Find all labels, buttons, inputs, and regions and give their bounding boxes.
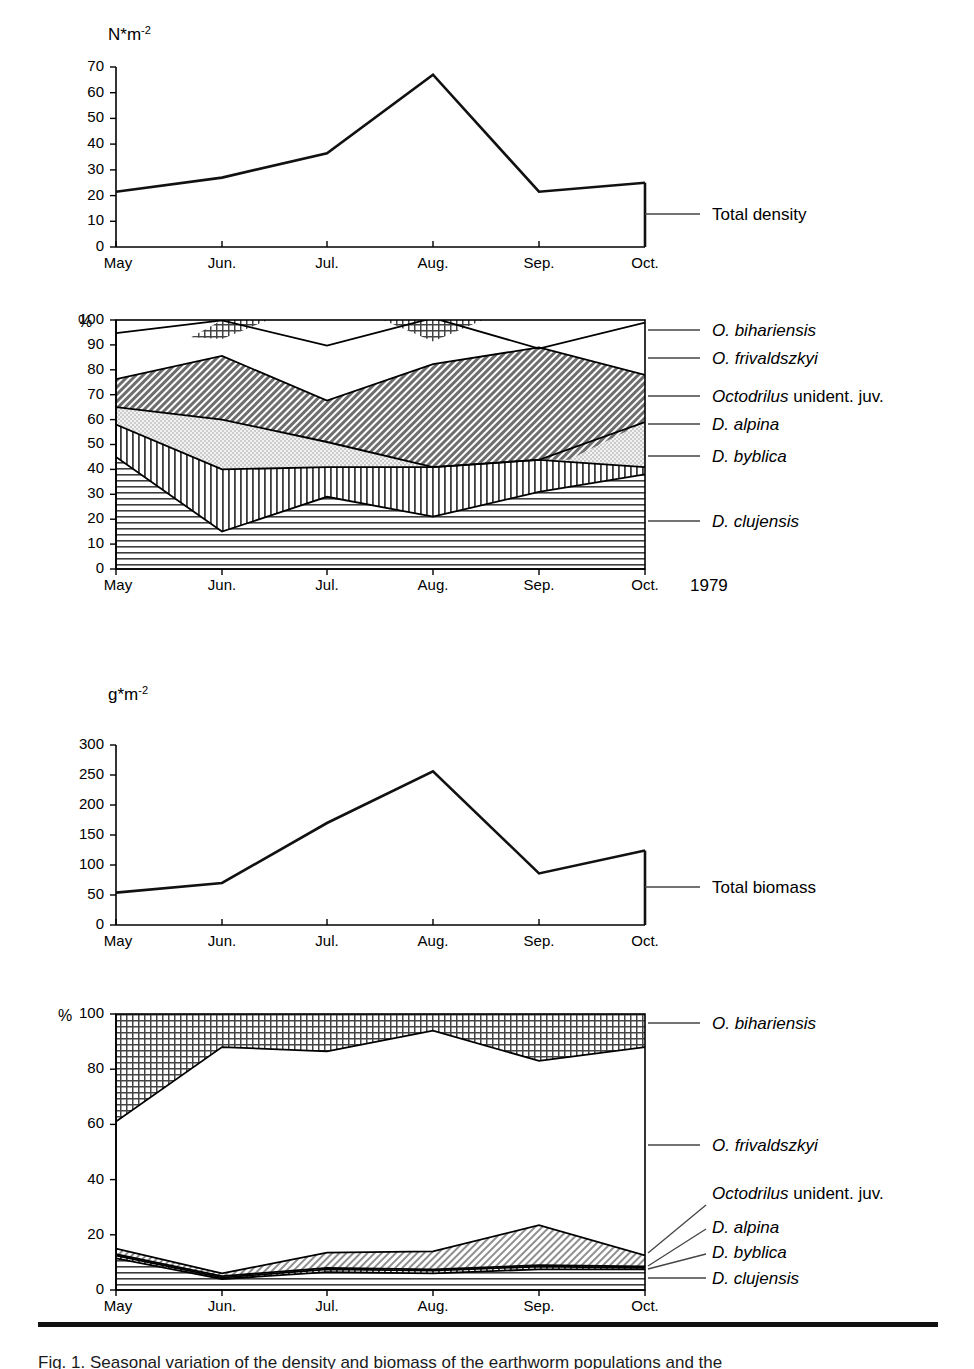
chart-total-density: N*m-2 70 60 50 40 30 20 10 0 [87,24,807,271]
chart1-y-tick-labels: 70 60 50 40 30 20 10 0 [87,57,104,254]
svg-text:80: 80 [87,1059,104,1076]
chart4-x-ticks [116,1290,645,1296]
svg-text:Jun.: Jun. [208,254,236,271]
svg-text:60: 60 [87,83,104,100]
chart1-unit-label: N*m-2 [108,24,151,44]
svg-text:250: 250 [79,765,104,782]
svg-text:100: 100 [79,855,104,872]
svg-text:150: 150 [79,825,104,842]
chart-biomass-composition: % [58,1004,884,1314]
svg-text:100: 100 [79,310,104,327]
svg-text:Jun.: Jun. [208,576,236,593]
figure-root: N*m-2 70 60 50 40 30 20 10 0 [0,0,974,1369]
svg-text:Jun.: Jun. [208,1297,236,1314]
svg-text:200: 200 [79,795,104,812]
svg-text:May: May [104,254,133,271]
svg-text:Sep.: Sep. [524,254,555,271]
svg-text:0: 0 [96,915,104,932]
svg-text:Aug.: Aug. [418,1297,449,1314]
legend-total-biomass: Total biomass [712,878,816,897]
svg-text:10: 10 [87,534,104,551]
svg-text:40: 40 [87,1170,104,1187]
chart3-x-ticks [116,919,645,925]
chart4-percent-label: % [58,1007,72,1024]
svg-text:Sep.: Sep. [524,932,555,949]
chart2-x-ticks [116,569,645,575]
svg-text:Oct.: Oct. [631,254,659,271]
svg-text:70: 70 [87,385,104,402]
leader-b-d-byblica [648,1254,706,1269]
chart4-bands [116,1014,645,1290]
svg-text:60: 60 [87,1114,104,1131]
svg-text:0: 0 [96,237,104,254]
chart2-legend: O. bihariensis O. frivaldszkyi Octodrilu… [648,321,884,531]
svg-text:50: 50 [87,108,104,125]
svg-text:300: 300 [79,735,104,752]
chart1-x-tick-labels: May Jun. Jul. Aug. Sep. Oct. [104,254,659,271]
chart-total-biomass: g*m-2 300 250 200 150 100 50 0 [79,684,816,949]
svg-text:80: 80 [87,360,104,377]
chart3-y-tick-labels: 300 250 200 150 100 50 0 [79,735,104,932]
legend-octodrilus-juv: Octodrilus unident. juv. [712,387,884,406]
chart4-legend: O. bihariensis O. frivaldszkyi Octodrilu… [648,1014,884,1288]
svg-text:40: 40 [87,459,104,476]
svg-text:Jul.: Jul. [315,932,338,949]
caption-rule [38,1322,938,1327]
chart3-x-tick-labels: May Jun. Jul. Aug. Sep. Oct. [104,932,659,949]
svg-text:30: 30 [87,160,104,177]
svg-text:Jul.: Jul. [315,576,338,593]
svg-text:0: 0 [96,1280,104,1297]
legend-b-d-clujensis: D. clujensis [712,1269,799,1288]
chart3-unit-label: g*m-2 [108,684,148,704]
chart2-y-tick-labels: 100 90 80 70 60 50 40 30 20 10 0 [79,310,104,576]
chart2-x-tick-labels: May Jun. Jul. Aug. Sep. Oct. [104,576,659,593]
chart1-x-ticks [116,241,645,247]
svg-text:40: 40 [87,134,104,151]
figure-svg: N*m-2 70 60 50 40 30 20 10 0 [0,0,974,1369]
figure-caption: Fig. 1. Seasonal variation of the densit… [38,1352,938,1369]
svg-text:Jul.: Jul. [315,1297,338,1314]
chart1-y-ticks [110,67,116,247]
legend-d-byblica: D. byblica [712,447,787,466]
legend-b-octodrilus-juv: Octodrilus unident. juv. [712,1184,884,1203]
legend-b-o-frivaldszkyi: O. frivaldszkyi [712,1136,819,1155]
svg-text:90: 90 [87,335,104,352]
legend-b-o-bihariensis: O. bihariensis [712,1014,816,1033]
svg-text:Aug.: Aug. [418,254,449,271]
legend-total-density: Total density [712,205,807,224]
svg-text:20: 20 [87,186,104,203]
chart4-y-ticks [110,1014,116,1290]
svg-text:Sep.: Sep. [524,1297,555,1314]
chart2-year-label: 1979 [690,576,728,595]
chart2-bands [116,296,645,569]
legend-d-clujensis: D. clujensis [712,512,799,531]
svg-text:Aug.: Aug. [418,932,449,949]
svg-text:0: 0 [96,559,104,576]
svg-text:May: May [104,932,133,949]
svg-text:100: 100 [79,1004,104,1021]
leader-b-d-alpina [648,1229,706,1266]
leader-b-octodrilus-juv [648,1205,706,1253]
svg-text:50: 50 [87,434,104,451]
chart2-y-ticks [110,320,116,569]
svg-text:30: 30 [87,484,104,501]
svg-text:Oct.: Oct. [631,576,659,593]
legend-b-d-byblica: D. byblica [712,1243,787,1262]
svg-text:Jul.: Jul. [315,254,338,271]
svg-text:70: 70 [87,57,104,74]
chart3-y-ticks [110,745,116,925]
svg-text:Jun.: Jun. [208,932,236,949]
svg-text:Oct.: Oct. [631,932,659,949]
chart4-x-tick-labels: May Jun. Jul. Aug. Sep. Oct. [104,1297,659,1314]
legend-o-frivaldszkyi: O. frivaldszkyi [712,349,819,368]
chart-density-composition: % [78,296,884,595]
svg-text:50: 50 [87,885,104,902]
legend-b-d-alpina: D. alpina [712,1218,779,1237]
svg-text:Aug.: Aug. [418,576,449,593]
svg-text:10: 10 [87,211,104,228]
svg-text:20: 20 [87,1225,104,1242]
svg-text:20: 20 [87,509,104,526]
svg-text:60: 60 [87,410,104,427]
legend-d-alpina: D. alpina [712,415,779,434]
chart4-y-tick-labels: 100 80 60 40 20 0 [79,1004,104,1297]
